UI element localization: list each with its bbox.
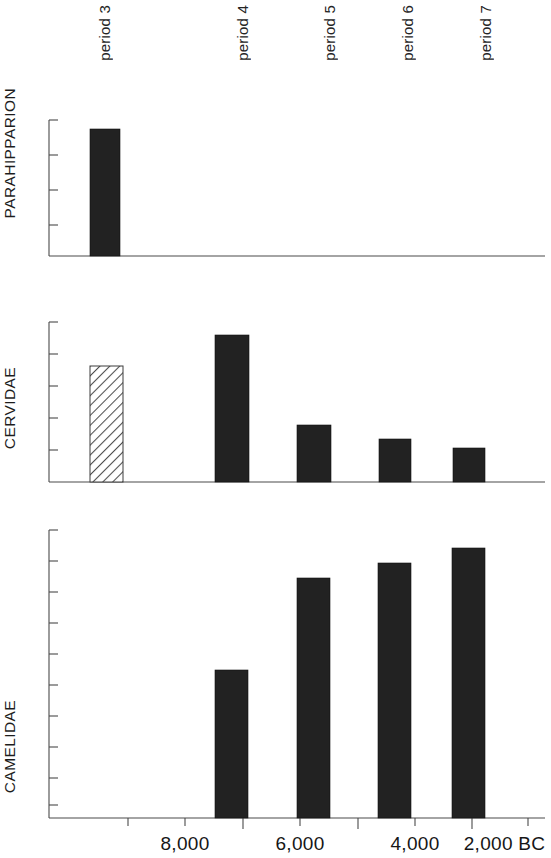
panel-camelidae-plot: [0, 0, 551, 858]
bars-camelidae: [215, 548, 485, 818]
x-tick-label-4000: 4,000: [390, 833, 439, 855]
bar-camelidae-period-6: [378, 563, 411, 818]
panel-camelidae: [0, 0, 551, 858]
x-tick-label-6000: 6,000: [275, 833, 324, 855]
y-ticks-camelidae: [49, 530, 58, 805]
bar-camelidae-period-5: [297, 578, 330, 818]
x-tick-label-8000: 8,000: [160, 833, 209, 855]
bar-camelidae-period-4: [215, 670, 248, 818]
bar-chart-figure: period 3 period 4 period 5 period 6 peri…: [0, 0, 551, 858]
x-tick-label-2000-bc: 2,000 BC: [464, 833, 546, 855]
bar-camelidae-period-7: [452, 548, 485, 818]
x-ticks-camelidae: [128, 818, 528, 829]
